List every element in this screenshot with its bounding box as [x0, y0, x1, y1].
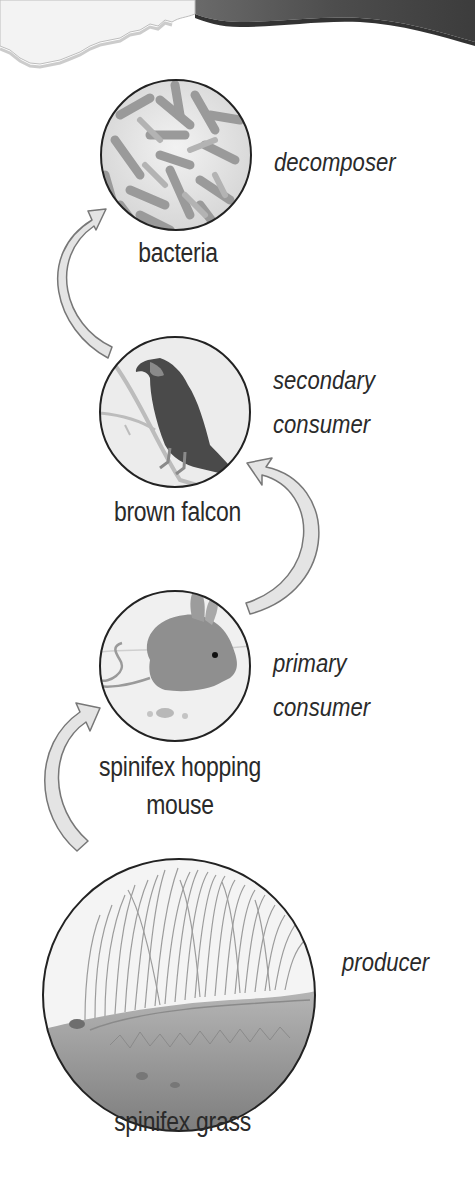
bacteria-illustration	[101, 80, 251, 230]
spinifex-grass-illustration	[40, 859, 320, 1140]
bacteria-label: bacteria	[127, 238, 229, 269]
arrow-mouse-to-falcon	[246, 458, 319, 614]
producer-role: producer	[342, 940, 429, 984]
spinifex-hopping-mouse-illustration	[91, 590, 250, 741]
secondary-consumer-role-line2: consumer	[273, 402, 370, 446]
arrow-falcon-to-bacteria	[58, 209, 112, 358]
primary-consumer-role-line2: consumer	[273, 685, 370, 729]
brown-falcon-label: brown falcon	[103, 497, 252, 528]
spinifex-hopping-mouse-label-line2: mouse	[129, 790, 231, 821]
brown-falcon-illustration	[100, 337, 250, 490]
secondary-consumer-role-line1: secondary	[273, 358, 375, 402]
spinifex-grass-label: spinifex grass	[104, 1107, 261, 1138]
spinifex-hopping-mouse-label-line1: spinifex hopping	[87, 752, 274, 783]
food-chain-graphic	[0, 0, 475, 1188]
decomposer-role: decomposer	[274, 140, 396, 184]
primary-consumer-role-line1: primary	[273, 641, 347, 685]
header-banner	[0, 0, 475, 67]
